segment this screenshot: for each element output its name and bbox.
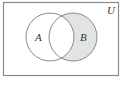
venn-diagram: A B U (0, 0, 121, 85)
set-a-label: A (34, 31, 42, 43)
set-b-label: B (80, 31, 87, 43)
universe-label: U (107, 4, 116, 16)
